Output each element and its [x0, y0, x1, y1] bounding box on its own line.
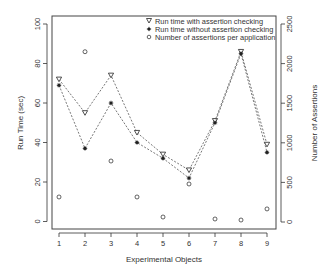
- right-y-axis: 05001000150020002500: [281, 16, 294, 224]
- x-tick-label: 7: [213, 239, 217, 248]
- legend-marker-circle-icon: [147, 35, 151, 39]
- plot-frame: [52, 16, 276, 229]
- legend-item-assertions: Number of assertions per application: [155, 33, 275, 42]
- circle-marker-icon: [239, 218, 243, 222]
- asterisk-marker-icon: [109, 101, 114, 106]
- legend-marker-triangle-icon: [147, 19, 152, 24]
- x-tick-label: 5: [161, 239, 165, 248]
- y2-tick-label: 0: [285, 220, 294, 224]
- left-y-axis: 020406080100: [33, 18, 47, 224]
- triangle-marker-icon: [134, 130, 139, 135]
- triangle-marker-icon: [186, 168, 191, 173]
- y2-axis-title: Number of Assertions: [310, 85, 319, 161]
- y-tick-label: 80: [33, 59, 42, 67]
- legend-marker-asterisk-icon: [147, 27, 151, 31]
- legend: Run time with assertion checking Run tim…: [147, 17, 276, 42]
- y2-tick-label: 1500: [285, 95, 294, 112]
- circle-marker-icon: [187, 182, 191, 186]
- x-tick-label: 9: [265, 239, 269, 248]
- circle-marker-icon: [161, 215, 165, 219]
- circle-marker-icon: [135, 195, 139, 199]
- x-tick-label: 2: [83, 239, 87, 248]
- x-tick-label: 4: [135, 239, 139, 248]
- y-tick-label: 0: [33, 219, 42, 223]
- y-tick-label: 60: [33, 99, 42, 107]
- asterisk-marker-icon: [265, 150, 270, 155]
- triangle-marker-icon: [56, 77, 61, 82]
- y2-tick-label: 1000: [285, 134, 294, 151]
- triangle-marker-icon: [108, 73, 113, 78]
- circle-marker-icon: [57, 195, 61, 199]
- series-layer: [56, 49, 269, 222]
- asterisk-marker-icon: [57, 83, 62, 88]
- x-tick-label: 8: [239, 239, 243, 248]
- y2-tick-label: 500: [285, 176, 294, 189]
- asterisk-marker-icon: [239, 51, 244, 56]
- y2-tick-label: 2500: [285, 16, 294, 33]
- y-tick-label: 40: [33, 138, 42, 146]
- x-axis: 123456789: [57, 233, 269, 248]
- triangle-marker-icon: [82, 111, 87, 116]
- circle-marker-icon: [213, 217, 217, 221]
- x-axis-title: Experimental Objects: [126, 255, 202, 264]
- y-axis-title: Run Time (sec): [16, 96, 25, 151]
- y2-tick-label: 2000: [285, 55, 294, 72]
- chart: 020406080100 05001000150020002500 123456…: [0, 0, 326, 279]
- x-tick-label: 3: [109, 239, 113, 248]
- circle-marker-icon: [265, 207, 269, 211]
- x-tick-label: 6: [187, 239, 191, 248]
- y-tick-label: 100: [33, 18, 42, 31]
- x-tick-label: 1: [57, 239, 61, 248]
- y-tick-label: 20: [33, 178, 42, 186]
- asterisk-marker-icon: [161, 156, 166, 161]
- asterisk-marker-icon: [135, 140, 140, 145]
- circle-marker-icon: [83, 50, 87, 54]
- asterisk-marker-icon: [83, 146, 88, 151]
- circle-marker-icon: [109, 159, 113, 163]
